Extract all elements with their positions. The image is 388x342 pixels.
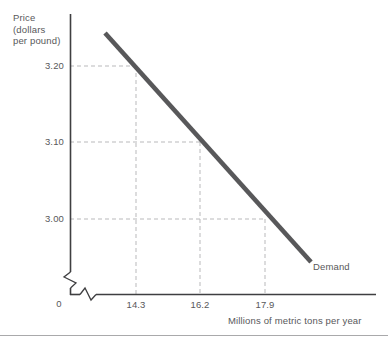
demand-curve-figure: Price(dollarsper pound) 3.20 3.10 3.00 0… bbox=[0, 0, 388, 342]
series-label-demand: Demand bbox=[313, 261, 350, 273]
x-tick-label-162: 16.2 bbox=[178, 299, 222, 311]
y-axis-title-line-3: per pound) bbox=[13, 35, 60, 46]
y-axis-break-icon bbox=[64, 272, 76, 288]
x-tick-label-143: 14.3 bbox=[114, 299, 158, 311]
x-tick-label-179: 17.9 bbox=[243, 299, 287, 311]
y-axis-title-line-1: Price bbox=[13, 12, 35, 23]
y-axis-title: Price(dollarsper pound) bbox=[13, 12, 60, 47]
y-tick-label-310: 3.10 bbox=[20, 136, 64, 148]
plot-area bbox=[0, 0, 388, 342]
y-tick-label-320: 3.20 bbox=[20, 60, 64, 72]
y-axis-title-line-2: (dollars bbox=[13, 24, 45, 35]
y-tick-label-300: 3.00 bbox=[20, 213, 64, 225]
x-axis-break-icon bbox=[80, 288, 96, 300]
x-axis-title: Millions of metric tons per year bbox=[228, 315, 362, 327]
origin-label: 0 bbox=[52, 298, 66, 310]
